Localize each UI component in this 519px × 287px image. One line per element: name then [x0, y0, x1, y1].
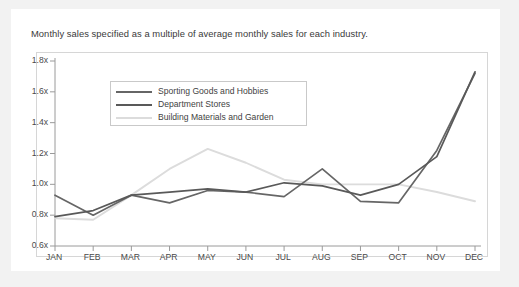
x-tick-label: JAN — [46, 252, 62, 262]
legend-swatch-department-stores — [116, 104, 152, 106]
x-tick-label: APR — [160, 252, 178, 262]
x-tick-label: JUN — [237, 252, 254, 262]
legend-item: Building Materials and Garden — [116, 111, 301, 124]
y-tick-label: 1.6x — [22, 86, 48, 96]
y-tick-label: 0.6x — [22, 240, 48, 250]
x-tick-label: AUG — [312, 252, 331, 262]
y-tick-label: 0.8x — [22, 209, 48, 219]
legend-label-building-materials: Building Materials and Garden — [158, 111, 274, 124]
x-tick-label: DEC — [465, 252, 483, 262]
x-tick-label: SEP — [351, 252, 368, 262]
page-title: Monthly sales specified as a multiple of… — [31, 28, 368, 39]
plot-area: Sporting Goods and Hobbies Department St… — [36, 52, 488, 257]
legend-label-sporting-goods: Sporting Goods and Hobbies — [158, 85, 268, 98]
x-tick-label: JUL — [275, 252, 290, 262]
legend-label-department-stores: Department Stores — [158, 98, 230, 111]
screenshot-root: Monthly sales specified as a multiple of… — [0, 0, 519, 287]
chart-legend: Sporting Goods and Hobbies Department St… — [110, 81, 307, 126]
y-tick-label: 1.2x — [22, 148, 48, 158]
y-tick-label: 1.8x — [22, 55, 48, 65]
x-tick-label: MAY — [198, 252, 216, 262]
chart-card: Monthly sales specified as a multiple of… — [11, 9, 500, 271]
legend-swatch-building-materials — [116, 117, 152, 119]
x-tick-label: FEB — [84, 252, 101, 262]
legend-item: Sporting Goods and Hobbies — [116, 85, 301, 98]
legend-swatch-sporting-goods — [116, 91, 152, 93]
legend-item: Department Stores — [116, 98, 301, 111]
x-tick-label: MAR — [121, 252, 140, 262]
x-tick-label: OCT — [389, 252, 407, 262]
y-tick-label: 1.0x — [22, 178, 48, 188]
y-tick-label: 1.4x — [22, 117, 48, 127]
x-tick-label: NOV — [427, 252, 446, 262]
